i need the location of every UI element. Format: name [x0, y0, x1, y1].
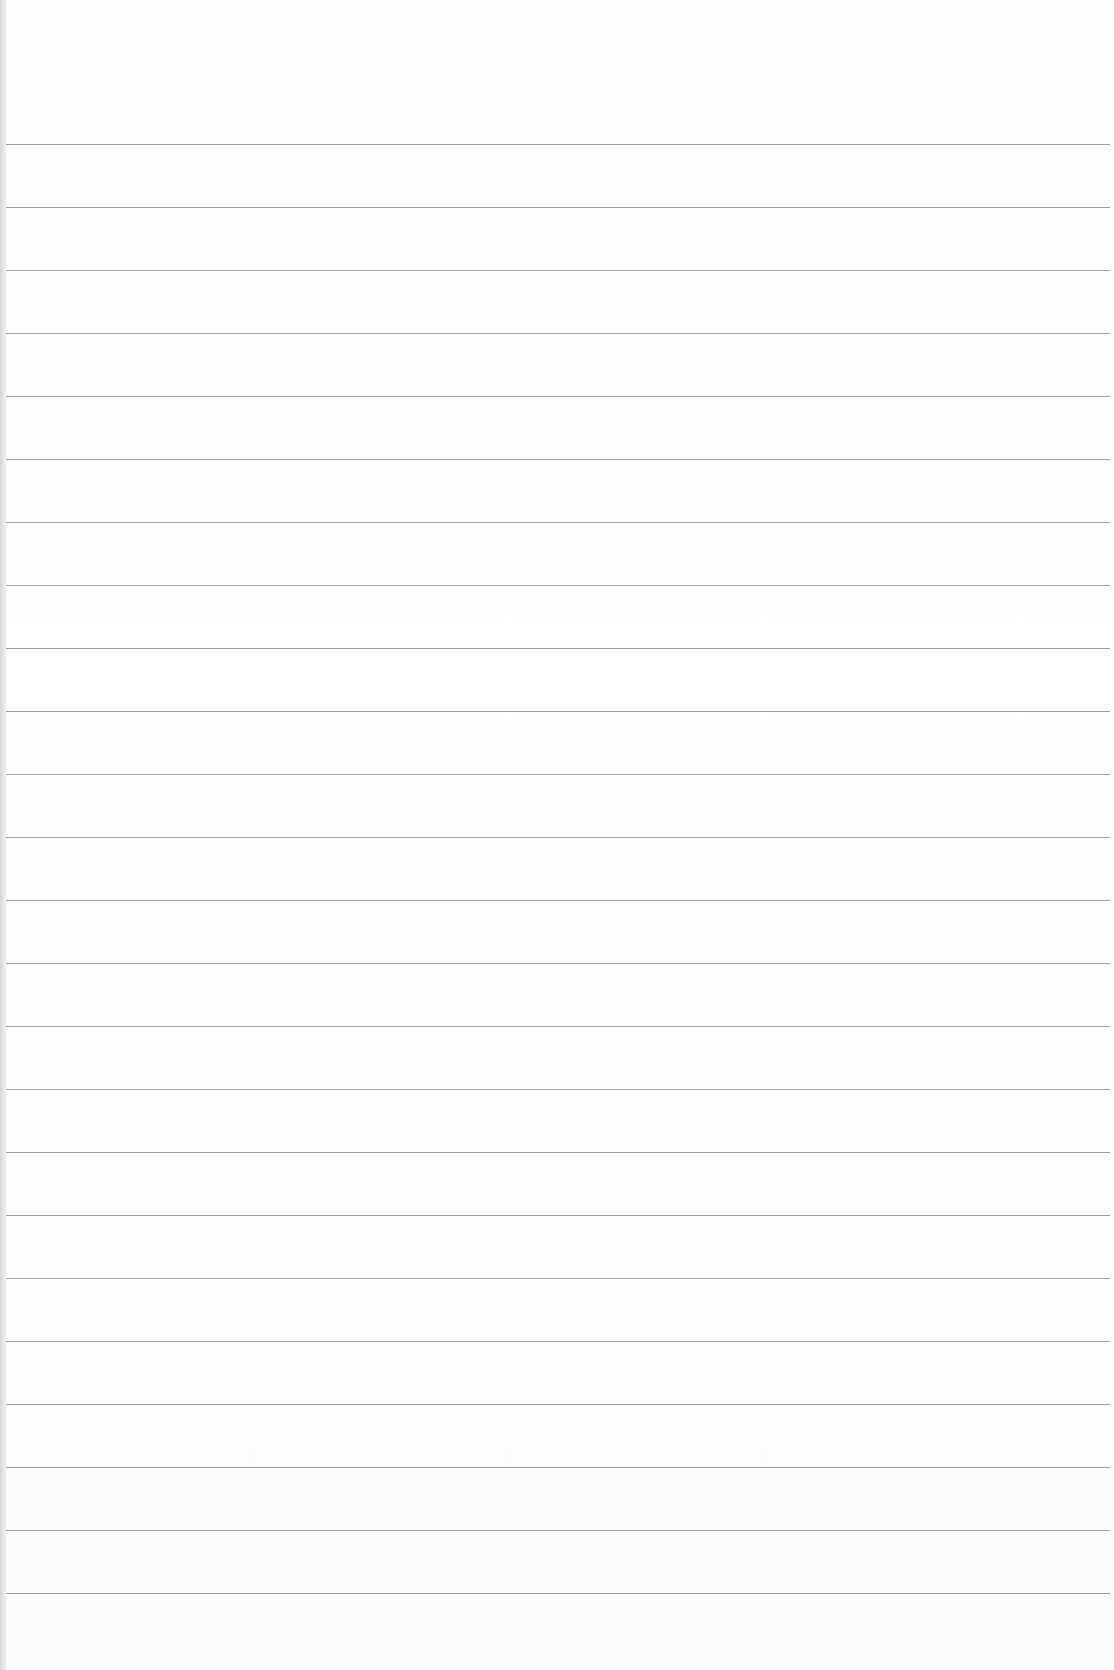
ruled-line [6, 1089, 1110, 1090]
ruled-line [6, 1593, 1110, 1594]
ruled-line [6, 1467, 1110, 1468]
ruled-line [6, 144, 1110, 145]
ruled-line [6, 1215, 1110, 1216]
ruled-line [6, 648, 1110, 649]
ruled-line [6, 333, 1110, 334]
ruled-line [6, 711, 1110, 712]
ruled-line [6, 1404, 1110, 1405]
ruled-line [6, 1152, 1110, 1153]
ruled-paper-page [0, 0, 1114, 1670]
ruled-line [6, 1026, 1110, 1027]
ruled-line [6, 585, 1110, 586]
ruled-line [6, 459, 1110, 460]
ruled-line [6, 270, 1110, 271]
page-left-edge [0, 0, 7, 1670]
ruled-line [6, 522, 1110, 523]
ruled-line [6, 396, 1110, 397]
ruled-line [6, 1278, 1110, 1279]
ruled-line [6, 207, 1110, 208]
ruled-line [6, 1530, 1110, 1531]
ruled-line [6, 837, 1110, 838]
ruled-line [6, 900, 1110, 901]
ruled-line [6, 774, 1110, 775]
ruled-line [6, 1341, 1110, 1342]
ruled-line [6, 963, 1110, 964]
